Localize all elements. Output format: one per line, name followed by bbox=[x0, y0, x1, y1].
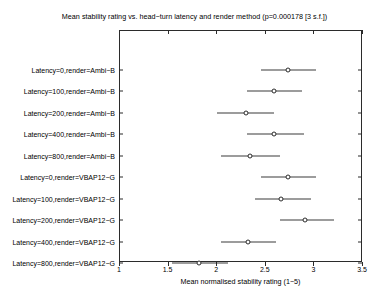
y-axis-tick-mark bbox=[119, 241, 123, 242]
y-axis-tick-label: Latency=200,render=VBAP12−G bbox=[12, 217, 115, 224]
x-axis-tick-mark-top bbox=[313, 30, 314, 34]
y-axis-tick-mark bbox=[119, 112, 123, 113]
y-axis-tick-label: Latency=100,render=Ambi−B bbox=[24, 88, 115, 95]
data-point-marker bbox=[244, 110, 249, 115]
y-axis-tick-label: Latency=200,render=Ambi−B bbox=[24, 109, 115, 116]
y-axis-tick-mark bbox=[119, 220, 123, 221]
data-point-marker bbox=[279, 196, 284, 201]
x-axis-tick-mark-top bbox=[216, 30, 217, 34]
y-axis-tick-label: Latency=400,render=Ambi−B bbox=[24, 131, 115, 138]
x-axis-tick-mark-top bbox=[362, 30, 363, 34]
y-axis-tick-label: Latency=800,render=VBAP12−G bbox=[12, 260, 115, 267]
y-axis-tick-mark bbox=[119, 70, 123, 71]
x-axis-label: Mean normalised stability rating (1−5) bbox=[119, 277, 362, 286]
x-axis-tick-mark-top bbox=[119, 30, 120, 34]
y-axis-tick-mark-right bbox=[358, 155, 362, 156]
plot-area bbox=[119, 30, 362, 262]
data-point-marker bbox=[302, 218, 307, 223]
data-point-marker bbox=[271, 89, 276, 94]
x-axis-tick-label: 2.5 bbox=[260, 266, 270, 273]
y-axis-tick-mark-right bbox=[358, 241, 362, 242]
data-point-marker bbox=[286, 175, 291, 180]
x-axis-tick-label: 3 bbox=[311, 266, 315, 273]
x-axis-tick-label: 3.5 bbox=[357, 266, 367, 273]
data-point-marker bbox=[248, 153, 253, 158]
y-axis-tick-label: Latency=0,render=VBAP12−G bbox=[20, 174, 115, 181]
y-axis-tick-mark bbox=[119, 198, 123, 199]
y-axis-tick-mark-right bbox=[358, 177, 362, 178]
chart-title: Mean stability rating vs. head−turn late… bbox=[0, 12, 389, 21]
data-point-marker bbox=[196, 261, 201, 266]
x-axis-tick-mark-top bbox=[265, 30, 266, 34]
y-axis-tick-mark bbox=[119, 155, 123, 156]
y-axis-tick-label: Latency=800,render=Ambi−B bbox=[24, 152, 115, 159]
y-axis-tick-mark bbox=[119, 177, 123, 178]
x-axis-tick-mark-top bbox=[168, 30, 169, 34]
y-axis-tick-mark-right bbox=[358, 70, 362, 71]
y-axis-tick-mark-right bbox=[358, 198, 362, 199]
y-axis-tick-mark-right bbox=[358, 220, 362, 221]
data-point-marker bbox=[246, 239, 251, 244]
x-axis-tick-label: 2 bbox=[214, 266, 218, 273]
y-axis-tick-label: Latency=400,render=VBAP12−G bbox=[12, 238, 115, 245]
figure-canvas: Mean stability rating vs. head−turn late… bbox=[0, 0, 389, 303]
data-point-marker bbox=[271, 132, 276, 137]
y-axis-tick-mark-right bbox=[358, 134, 362, 135]
y-axis-tick-label: Latency=0,render=Ambi−B bbox=[32, 67, 115, 74]
y-axis-tick-mark bbox=[119, 134, 123, 135]
x-axis-tick-label: 1 bbox=[117, 266, 121, 273]
y-axis-tick-mark-right bbox=[358, 91, 362, 92]
data-point-marker bbox=[286, 68, 291, 73]
x-axis-tick-label: 1.5 bbox=[163, 266, 173, 273]
y-axis-tick-label: Latency=100,render=VBAP12−G bbox=[12, 195, 115, 202]
y-axis-tick-mark-right bbox=[358, 112, 362, 113]
y-axis-tick-mark bbox=[119, 91, 123, 92]
